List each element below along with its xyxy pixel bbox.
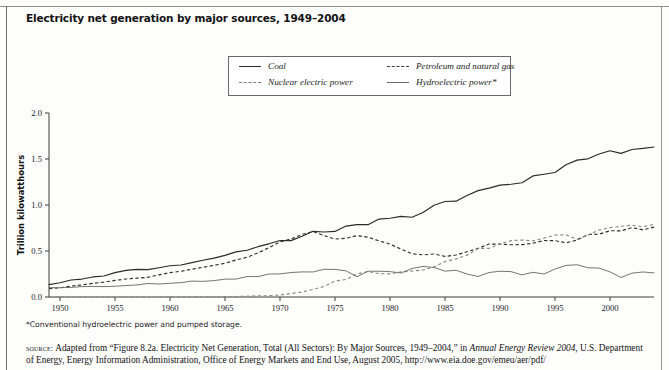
- series-line-coal: [49, 147, 654, 285]
- legend-line-dotted-icon: [239, 78, 261, 87]
- y-axis-title: Trillion kilowatthours: [16, 155, 26, 255]
- legend-item-petroleum: Petroleum and natural gas: [387, 62, 514, 71]
- source-text-part1: Adapted from “Figure 8.2a. Electricity N…: [53, 343, 469, 353]
- series-line-petroleum: [49, 227, 654, 289]
- y-axis: 0.00.51.01.52.0: [31, 108, 49, 302]
- x-tick-label: 1955: [106, 303, 123, 313]
- source-publication-title: Annual Energy Review 2004: [470, 343, 576, 353]
- source-label: source:: [26, 344, 53, 353]
- series-line-hydro: [49, 265, 654, 288]
- x-tick-label: 1960: [161, 303, 178, 313]
- y-tick-label: 1.5: [31, 154, 42, 164]
- legend-item-nuclear: Nuclear electric power: [239, 78, 353, 87]
- series-lines: [49, 147, 654, 297]
- y-tick-label: 0.5: [31, 246, 42, 256]
- y-tick-label: 2.0: [31, 108, 42, 118]
- figure-source: source: Adapted from “Figure 8.2a. Elect…: [26, 343, 650, 366]
- legend-label-nuclear: Nuclear electric power: [268, 78, 353, 87]
- legend-line-thin-icon: [387, 78, 409, 87]
- x-tick-label: 1975: [326, 303, 343, 313]
- legend-item-coal: Coal: [239, 62, 286, 71]
- x-tick-label: 1965: [216, 303, 233, 313]
- x-tick-label: 1995: [546, 303, 563, 313]
- figure-footnote: *Conventional hydroelectric power and pu…: [26, 320, 242, 329]
- y-tick-label: 0.0: [31, 292, 42, 302]
- x-tick-label: 1985: [436, 303, 453, 313]
- x-tick-label: 1980: [381, 303, 398, 313]
- legend-label-hydro: Hydroelectric power*: [416, 78, 497, 87]
- x-tick-label: 2000: [601, 303, 618, 313]
- legend-item-hydro: Hydroelectric power*: [387, 78, 497, 87]
- page-top-rule: [0, 6, 669, 7]
- x-tick-label: 1970: [271, 303, 288, 313]
- page-right-rule: [661, 6, 662, 370]
- x-tick-label: 1990: [491, 303, 508, 313]
- series-line-nuclear: [49, 224, 654, 297]
- legend-label-coal: Coal: [268, 62, 286, 71]
- y-tick-label: 1.0: [31, 200, 42, 210]
- page-left-rule: [6, 6, 7, 370]
- legend-line-solid-icon: [239, 62, 261, 71]
- x-axis: 1950195519601965197019751980198519901995…: [49, 297, 654, 313]
- chart-legend: Coal Petroleum and natural gas Nuclear e…: [228, 56, 511, 96]
- legend-label-petroleum: Petroleum and natural gas: [416, 62, 514, 71]
- figure-page: Electricity net generation by major sour…: [0, 0, 669, 370]
- figure-title: Electricity net generation by major sour…: [26, 12, 346, 24]
- x-tick-label: 1950: [51, 303, 68, 313]
- legend-line-dashed-icon: [387, 62, 409, 71]
